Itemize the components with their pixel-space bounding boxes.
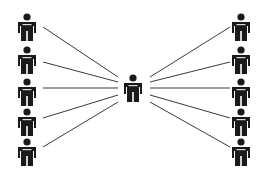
shirt-detail	[23, 57, 32, 58]
person-icon	[232, 46, 250, 74]
shirt-detail	[237, 24, 246, 25]
diagram-canvas	[0, 0, 268, 177]
person-icon	[232, 108, 250, 136]
person-icon	[18, 46, 36, 74]
connection-line	[150, 95, 230, 118]
shirt-detail	[23, 89, 32, 90]
hub-person-icon	[124, 74, 142, 102]
network-diagram	[0, 0, 268, 177]
shirt-detail	[237, 119, 246, 120]
connection-line	[43, 102, 118, 147]
shirt-detail	[23, 119, 32, 120]
shirt-detail	[237, 57, 246, 58]
person-icon	[232, 13, 250, 41]
person-icon	[18, 138, 36, 166]
shirt-detail	[23, 24, 32, 25]
connection-line	[43, 95, 118, 118]
shirt-detail	[129, 85, 138, 86]
shirt-detail	[23, 149, 32, 150]
connection-line	[150, 27, 230, 77]
connection-line	[150, 62, 230, 82]
connection-line	[43, 62, 118, 82]
person-icon	[18, 13, 36, 41]
person-icon	[18, 78, 36, 106]
person-icon	[232, 78, 250, 106]
shirt-detail	[237, 89, 246, 90]
person-icon	[18, 108, 36, 136]
shirt-detail	[237, 149, 246, 150]
connection-line	[43, 27, 118, 77]
connection-line	[150, 102, 230, 147]
person-icon	[232, 138, 250, 166]
